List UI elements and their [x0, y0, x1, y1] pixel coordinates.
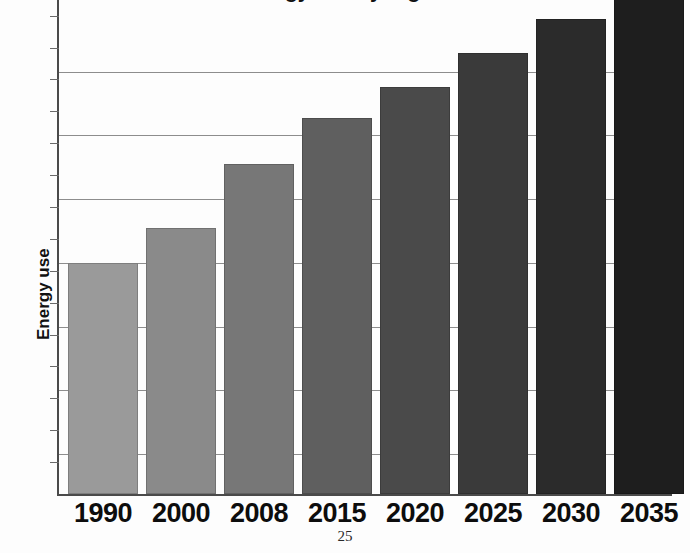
page-number: 25	[0, 528, 690, 545]
bar-2015	[302, 118, 372, 494]
x-axis-label-2015: 2015	[298, 498, 376, 529]
document-page: Energy use by region Energy use 19902000…	[0, 0, 690, 553]
bar-1990	[68, 263, 138, 494]
chart-plot-area	[57, 0, 672, 496]
bar-2000	[146, 228, 216, 494]
x-axis-label-2000: 2000	[142, 498, 220, 529]
x-axis-label-2035: 2035	[610, 498, 688, 529]
bar-2020	[380, 87, 450, 494]
x-axis-label-1990: 1990	[64, 498, 142, 529]
bar-2008	[224, 164, 294, 494]
bar-2025	[458, 53, 528, 494]
bars-group	[57, 0, 672, 496]
y-axis-title-wrap: Energy use	[8, 180, 42, 350]
bar-2030	[536, 19, 606, 494]
x-axis-label-2008: 2008	[220, 498, 298, 529]
bar-2035	[614, 0, 684, 494]
x-axis-label-2030: 2030	[532, 498, 610, 529]
x-axis-label-2020: 2020	[376, 498, 454, 529]
x-axis-label-2025: 2025	[454, 498, 532, 529]
y-axis-title: Energy use	[34, 248, 54, 340]
